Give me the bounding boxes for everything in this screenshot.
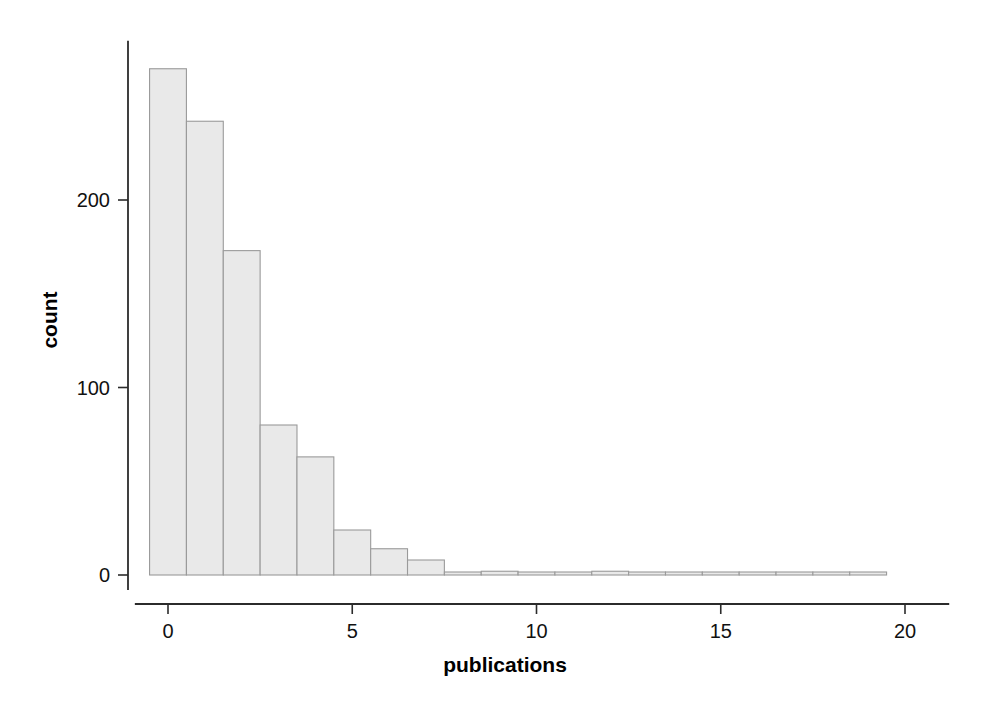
y-tick-label: 100: [77, 377, 110, 399]
y-tick-label: 200: [77, 189, 110, 211]
x-tick-label: 10: [525, 620, 547, 642]
histogram-bar: [334, 530, 371, 575]
bars-group: [150, 69, 887, 575]
chart-canvas: 0100200 05101520 publications count: [0, 0, 983, 718]
histogram-bar: [850, 572, 887, 575]
histogram-figure: 0100200 05101520 publications count: [0, 0, 983, 718]
x-tick-label: 20: [894, 620, 916, 642]
y-tick-label: 0: [99, 564, 110, 586]
histogram-bar: [260, 425, 297, 575]
y-axis-ticks: 0100200: [77, 189, 128, 586]
histogram-bar: [371, 549, 408, 575]
histogram-bar: [776, 572, 813, 575]
histogram-bar: [150, 69, 187, 575]
histogram-bar: [186, 121, 223, 575]
histogram-bar: [555, 572, 592, 575]
histogram-bar: [739, 572, 776, 575]
histogram-bar: [481, 571, 518, 575]
x-axis-ticks: 05101520: [162, 604, 916, 642]
histogram-bar: [444, 572, 481, 575]
histogram-bar: [665, 572, 702, 575]
x-axis-title: publications: [443, 653, 567, 676]
histogram-bar: [297, 457, 334, 575]
histogram-bar: [629, 572, 666, 575]
plot-area: 0100200 05101520 publications count: [0, 0, 983, 718]
y-axis-title: count: [38, 291, 61, 348]
x-tick-label: 0: [162, 620, 173, 642]
histogram-bar: [518, 572, 555, 575]
x-tick-label: 15: [710, 620, 732, 642]
histogram-bar: [702, 572, 739, 575]
histogram-bar: [813, 572, 850, 575]
histogram-bar: [592, 571, 629, 575]
histogram-bar: [408, 560, 445, 575]
x-tick-label: 5: [347, 620, 358, 642]
histogram-bar: [223, 251, 260, 575]
